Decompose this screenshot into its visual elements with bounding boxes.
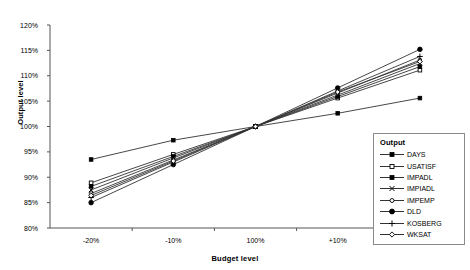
legend-marker-icon bbox=[379, 172, 405, 183]
data-point-marker bbox=[89, 158, 93, 162]
data-point-marker bbox=[390, 209, 395, 214]
legend-item-wksat[interactable]: WKSAT bbox=[379, 229, 460, 240]
data-point-marker bbox=[390, 164, 394, 168]
legend-item-impadl[interactable]: IMPADL bbox=[379, 172, 460, 183]
legend-marker-icon bbox=[379, 149, 405, 160]
data-point-marker bbox=[418, 68, 422, 72]
legend-marker-icon bbox=[379, 161, 405, 172]
data-point-marker bbox=[89, 185, 93, 189]
legend-marker-icon bbox=[379, 183, 405, 194]
legend-item-label: DAYS bbox=[407, 151, 426, 158]
legend-item-dld[interactable]: DLD bbox=[379, 206, 460, 217]
data-point-marker bbox=[390, 153, 394, 157]
legend-item-kosberg[interactable]: KOSBERG bbox=[379, 217, 460, 228]
data-point-marker bbox=[389, 220, 395, 226]
legend-item-label: IMPADL bbox=[407, 174, 433, 181]
data-point-marker bbox=[390, 175, 394, 179]
legend-items: DAYSUSATISFIMPADLIMPIADLIMPEMPDLDKOSBERG… bbox=[379, 149, 460, 240]
legend-marker-icon bbox=[379, 195, 405, 206]
data-point-marker bbox=[418, 96, 422, 100]
legend-marker-icon bbox=[379, 218, 405, 229]
data-point-marker bbox=[89, 200, 94, 205]
chart-legend: Output DAYSUSATISFIMPADLIMPIADLIMPEMPDLD… bbox=[373, 133, 465, 245]
data-point-marker bbox=[172, 138, 176, 142]
data-point-marker bbox=[390, 198, 394, 202]
legend-item-label: KOSBERG bbox=[407, 220, 442, 227]
legend-item-label: USATISF bbox=[407, 163, 436, 170]
legend-marker-icon bbox=[379, 206, 405, 217]
legend-item-impiadl[interactable]: IMPIADL bbox=[379, 183, 460, 194]
legend-item-days[interactable]: DAYS bbox=[379, 149, 460, 160]
legend-title: Output bbox=[380, 138, 460, 147]
data-point-marker bbox=[418, 47, 423, 52]
data-point-marker bbox=[389, 232, 394, 237]
data-point-marker bbox=[417, 54, 423, 60]
legend-item-label: DLD bbox=[407, 208, 421, 215]
chart-container: Output level Budget level 80%85%90%95%10… bbox=[0, 0, 470, 270]
legend-item-label: IMPEMP bbox=[407, 197, 435, 204]
legend-item-label: IMPIADL bbox=[407, 185, 435, 192]
legend-item-usatisf[interactable]: USATISF bbox=[379, 160, 460, 171]
data-point-marker bbox=[336, 112, 340, 116]
legend-marker-icon bbox=[379, 229, 405, 240]
data-point-marker bbox=[89, 181, 93, 185]
legend-item-impemp[interactable]: IMPEMP bbox=[379, 195, 460, 206]
legend-item-label: WKSAT bbox=[407, 231, 431, 238]
